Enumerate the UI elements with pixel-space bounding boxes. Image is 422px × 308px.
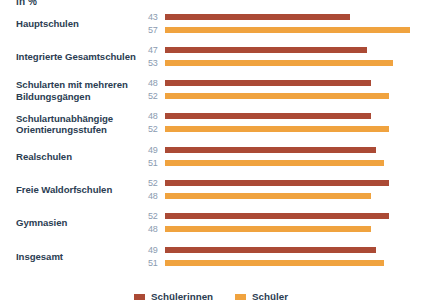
bar-group: 4951 [148, 240, 422, 273]
bar-value-label: 52 [148, 124, 165, 134]
bar-value-label: 47 [148, 45, 165, 55]
bar [165, 247, 376, 253]
legend-swatch-icon [134, 294, 145, 300]
bar-group: 4357 [148, 7, 422, 40]
bar-row-male: 53 [148, 57, 393, 68]
bar-group: 4852 [148, 107, 422, 140]
bar-value-label: 43 [148, 12, 165, 22]
chart-row: Freie Waldorfschulen5248 [0, 173, 422, 206]
chart-row: Gymnasien5248 [0, 207, 422, 240]
bar [165, 226, 371, 232]
bar-row-female: 48 [148, 78, 371, 89]
bar-value-label: 51 [148, 158, 165, 168]
bar [165, 213, 389, 219]
chart-row: Realschulen4951 [0, 140, 422, 173]
bar-value-label: 52 [148, 91, 165, 101]
chart-row: Hauptschulen4357 [0, 7, 422, 40]
category-label: Schulartunabhängige Orientierungsstufen [16, 112, 142, 135]
category-label: Gymnasien [16, 218, 142, 230]
bar-value-label: 48 [148, 224, 165, 234]
legend-label: Schülerinnen [151, 291, 213, 302]
chart-row: Insgesamt4951 [0, 240, 422, 273]
bar [165, 14, 350, 20]
bar-value-label: 49 [148, 145, 165, 155]
bar-row-female: 47 [148, 44, 367, 55]
bar-value-label: 49 [148, 245, 165, 255]
bar [165, 180, 389, 186]
bar-group: 4852 [148, 74, 422, 107]
category-label: Freie Waldorfschulen [16, 184, 142, 196]
category-label: Schularten mit mehreren Bildungsgängen [16, 79, 142, 102]
bar-value-label: 57 [148, 25, 165, 35]
legend-label: Schüler [252, 291, 288, 302]
bar-value-label: 52 [148, 178, 165, 188]
bar [165, 126, 389, 132]
bar-group: 4951 [148, 140, 422, 173]
chart-row: Integrierte Gesamtschulen4753 [0, 40, 422, 73]
bar [165, 93, 389, 99]
category-label: Realschulen [16, 151, 142, 163]
bar [165, 47, 367, 53]
bar-row-female: 48 [148, 111, 371, 122]
bar [165, 113, 371, 119]
category-label: Hauptschulen [16, 18, 142, 30]
bar-value-label: 48 [148, 191, 165, 201]
bar-row-male: 48 [148, 190, 371, 201]
bar-row-female: 49 [148, 144, 376, 155]
bar-row-male: 51 [148, 257, 384, 268]
bar [165, 60, 393, 66]
bar-row-male: 57 [148, 24, 410, 35]
legend-swatch-icon [235, 294, 246, 300]
bar-value-label: 53 [148, 58, 165, 68]
chart-row: Schularten mit mehreren Bildungsgängen48… [0, 74, 422, 107]
chart-rows: Hauptschulen4357Integrierte Gesamtschule… [0, 7, 422, 273]
bar-group: 4753 [148, 40, 422, 73]
bar-group: 5248 [148, 207, 422, 240]
chart-legend: SchülerinnenSchüler [0, 291, 422, 302]
bar [165, 27, 410, 33]
bar-row-female: 49 [148, 244, 376, 255]
bar-row-male: 52 [148, 91, 389, 102]
bar-value-label: 48 [148, 78, 165, 88]
bar [165, 193, 371, 199]
bar-row-female: 43 [148, 11, 350, 22]
bar-group: 5248 [148, 173, 422, 206]
bar-row-male: 48 [148, 224, 371, 235]
bar-row-female: 52 [148, 211, 389, 222]
category-label: Integrierte Gesamtschulen [16, 51, 142, 63]
bar-value-label: 51 [148, 258, 165, 268]
bar-value-label: 48 [148, 111, 165, 121]
bar-row-male: 52 [148, 124, 389, 135]
bar [165, 160, 384, 166]
bar-value-label: 52 [148, 211, 165, 221]
bar [165, 147, 376, 153]
category-label: Insgesamt [16, 251, 142, 263]
axis-unit-label: in % [16, 0, 37, 7]
bar [165, 80, 371, 86]
bar-chart: in % Hauptschulen4357Integrierte Gesamts… [0, 0, 422, 308]
legend-item-male[interactable]: Schüler [235, 291, 288, 302]
bar [165, 260, 384, 266]
legend-item-female[interactable]: Schülerinnen [134, 291, 213, 302]
chart-row: Schulartunabhängige Orientierungsstufen4… [0, 107, 422, 140]
bar-row-female: 52 [148, 177, 389, 188]
bar-row-male: 51 [148, 157, 384, 168]
